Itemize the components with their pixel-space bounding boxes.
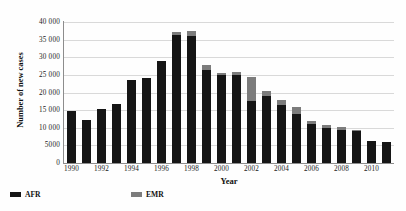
legend-swatch-emr-icon <box>131 192 142 197</box>
bar-segment-emr-2002 <box>247 77 257 102</box>
bar-segment-afr-1996 <box>157 61 167 163</box>
bar-segment-afr-1991 <box>82 120 92 163</box>
gridline-30000 <box>64 57 394 58</box>
bar-segment-afr-1994 <box>127 80 137 163</box>
x-tick-label-2004: 2004 <box>274 165 289 173</box>
bar-1995 <box>142 78 152 163</box>
bar-1998 <box>187 31 197 163</box>
bar-2004 <box>277 100 287 163</box>
y-tick-label-35000: 35 000 <box>2 36 60 44</box>
gridline-0 <box>64 163 394 164</box>
x-tick-label-2002: 2002 <box>244 165 259 173</box>
bar-segment-afr-2010 <box>367 141 377 163</box>
bar-segment-afr-2000 <box>217 75 227 163</box>
bar-1990 <box>67 111 77 163</box>
y-tick-label-5000: 5000 <box>2 141 60 149</box>
bar-1999 <box>202 65 212 163</box>
bar-segment-afr-2009 <box>352 131 362 163</box>
y-tick-label-20000: 20 000 <box>2 89 60 97</box>
bar-segment-afr-1995 <box>142 78 152 163</box>
bar-2007 <box>322 125 332 163</box>
y-tick-label-40000: 40 000 <box>2 18 60 26</box>
y-tick-label-15000: 15 000 <box>2 106 60 114</box>
y-tick-label-30000: 30 000 <box>2 53 60 61</box>
bar-segment-afr-2004 <box>277 105 287 163</box>
x-tick-label-2000: 2000 <box>214 165 229 173</box>
x-tick-label-1996: 1996 <box>154 165 169 173</box>
y-tick-label-0: 0 <box>2 159 60 167</box>
bar-2005 <box>292 107 302 163</box>
bar-1994 <box>127 80 137 163</box>
bar-segment-afr-1990 <box>67 111 77 163</box>
x-tick-label-1990: 1990 <box>64 165 79 173</box>
bar-2008 <box>337 127 347 163</box>
bar-1996 <box>157 61 167 163</box>
bar-chart-figure: Number of new cases 0500010 00015 00020 … <box>0 0 406 211</box>
bar-1991 <box>82 120 92 163</box>
bar-1993 <box>112 104 122 163</box>
gridline-40000 <box>64 22 394 23</box>
bar-segment-afr-2007 <box>322 128 332 163</box>
bar-segment-afr-2006 <box>307 124 317 163</box>
bar-2002 <box>247 77 257 163</box>
bar-2010 <box>367 141 377 163</box>
bar-2000 <box>217 73 227 163</box>
bar-segment-afr-2008 <box>337 130 347 163</box>
x-tick-label-1994: 1994 <box>124 165 139 173</box>
y-tick-label-25000: 25 000 <box>2 71 60 79</box>
bar-segment-afr-1997 <box>172 35 182 163</box>
bar-segment-afr-1999 <box>202 70 212 163</box>
x-tick-label-2006: 2006 <box>304 165 319 173</box>
bar-segment-afr-2011 <box>382 142 392 163</box>
y-tick-label-10000: 10 000 <box>2 124 60 132</box>
bar-segment-afr-2001 <box>232 75 242 163</box>
bar-segment-afr-2003 <box>262 96 272 163</box>
gridline-20000 <box>64 93 394 94</box>
plot-area <box>64 22 394 163</box>
legend-item-afr: AFR <box>10 190 41 199</box>
x-axis-title: Year <box>64 176 394 186</box>
bar-2009 <box>352 130 362 163</box>
bar-2006 <box>307 121 317 163</box>
bar-2011 <box>382 142 392 163</box>
legend-label-emr: EMR <box>146 190 164 199</box>
chart-legend: AFR EMR <box>0 190 406 206</box>
bar-segment-afr-1992 <box>97 109 107 163</box>
bar-segment-afr-1998 <box>187 36 197 163</box>
x-tick-label-2008: 2008 <box>334 165 349 173</box>
x-tick-label-1992: 1992 <box>94 165 109 173</box>
legend-item-emr: EMR <box>131 190 164 199</box>
bar-2003 <box>262 91 272 163</box>
bar-2001 <box>232 72 242 163</box>
gridline-35000 <box>64 40 394 41</box>
x-tick-label-1998: 1998 <box>184 165 199 173</box>
bar-segment-afr-2002 <box>247 101 257 163</box>
bar-1997 <box>172 32 182 163</box>
bar-segment-afr-1993 <box>112 104 122 163</box>
x-tick-label-2010: 2010 <box>364 165 379 173</box>
legend-swatch-afr-icon <box>10 192 21 197</box>
y-axis-tick-labels: 0500010 00015 00020 00025 00030 00035 00… <box>0 0 60 211</box>
bar-1992 <box>97 109 107 163</box>
legend-label-afr: AFR <box>25 190 41 199</box>
gridline-25000 <box>64 75 394 76</box>
bar-segment-afr-2005 <box>292 114 302 163</box>
